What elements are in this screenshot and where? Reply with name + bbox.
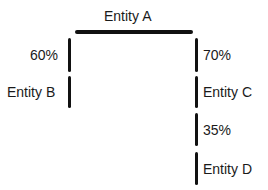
- left-entity-bracket: [68, 76, 71, 108]
- left-percent-bracket: [68, 38, 71, 72]
- left-percent-label: 60%: [30, 47, 58, 63]
- entity-d-label: Entity D: [203, 161, 252, 177]
- sub-entity-bracket: [195, 152, 198, 185]
- root-entity-label: Entity A: [104, 8, 151, 24]
- entity-b-label: Entity B: [7, 84, 55, 100]
- right-entity-bracket: [195, 76, 198, 108]
- right-percent-label: 70%: [203, 47, 231, 63]
- sub-percent-label: 35%: [203, 122, 231, 138]
- entity-c-label: Entity C: [203, 84, 252, 100]
- right-percent-bracket: [195, 38, 198, 72]
- root-connector-line: [75, 30, 193, 34]
- sub-percent-bracket: [195, 113, 198, 146]
